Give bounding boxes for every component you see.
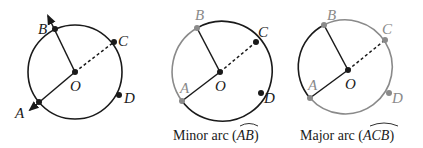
label-B: B — [327, 7, 336, 23]
dashed-radius-OC — [348, 40, 385, 70]
label-O: O — [70, 78, 81, 94]
point-A — [307, 95, 313, 101]
caption-major-arc: Major arc (ACB) — [300, 128, 394, 144]
label-D: D — [123, 90, 135, 106]
label-C: C — [258, 24, 269, 40]
ray-OA — [30, 72, 75, 110]
label-O: O — [345, 76, 356, 92]
point-C — [111, 39, 117, 45]
point-A — [36, 99, 42, 105]
dashed-radius-OC — [220, 42, 256, 72]
label-B: B — [38, 21, 47, 37]
point-D — [116, 92, 122, 98]
major-arc-ACB — [310, 20, 392, 114]
label-C: C — [118, 33, 129, 49]
label-A: A — [14, 105, 25, 121]
point-O — [72, 69, 78, 75]
figure-circle-3: B C A D O Major arc (ACB) — [298, 7, 403, 144]
label-B: B — [195, 7, 204, 23]
label-O: O — [215, 78, 226, 94]
arc-symbol — [240, 124, 258, 127]
label-A: A — [307, 77, 318, 93]
caption-minor-arc: Minor arc (AB) — [173, 128, 259, 144]
figure-circle-2: B C A D O Minor arc (AB) — [172, 7, 275, 144]
label-C: C — [382, 21, 393, 37]
radius-OB — [197, 28, 220, 72]
figure-circle-1: B C A D O — [14, 16, 135, 121]
label-A: A — [179, 80, 190, 96]
point-A — [179, 98, 185, 104]
point-C — [382, 37, 388, 43]
circle-arcs-diagram: B C A D O B C A D O Minor arc (AB) — [0, 0, 423, 148]
label-D: D — [263, 90, 275, 106]
radius-OB — [324, 25, 348, 70]
point-O — [345, 67, 351, 73]
point-O — [217, 69, 223, 75]
dashed-radius-OC — [75, 42, 114, 72]
label-D: D — [391, 90, 403, 106]
point-B — [52, 26, 58, 32]
point-B — [194, 25, 200, 31]
arc-symbol — [370, 123, 398, 126]
